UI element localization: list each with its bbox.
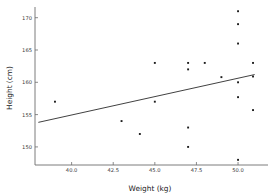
data-point <box>237 23 239 25</box>
x-tick-label: 47.5 <box>191 167 203 173</box>
y-tick-label: 170 <box>22 15 32 21</box>
y-tick-label: 165 <box>22 47 32 53</box>
x-tick-label: 45.0 <box>149 167 161 173</box>
data-point <box>237 159 239 161</box>
trend-line <box>38 75 254 123</box>
data-point <box>252 109 254 111</box>
axes <box>35 7 268 165</box>
data-point <box>187 146 189 148</box>
y-tick-label: 155 <box>22 112 32 118</box>
x-tick-label: 42.5 <box>107 167 119 173</box>
data-point <box>187 68 189 70</box>
y-axis-title: Height (cm) <box>5 66 14 110</box>
data-point <box>139 133 141 135</box>
linear-fit-line <box>38 75 254 123</box>
data-point <box>204 62 206 64</box>
chart-canvas: 40.042.545.047.550.0 150155160165170 Wei… <box>0 0 274 194</box>
data-point <box>187 127 189 129</box>
data-point <box>237 10 239 12</box>
data-point <box>252 76 254 78</box>
data-point <box>252 62 254 64</box>
y-tick-label: 160 <box>22 79 32 85</box>
data-point <box>237 96 239 98</box>
data-point <box>54 101 56 103</box>
x-tick-label: 50.0 <box>232 167 244 173</box>
data-point <box>187 62 189 64</box>
data-point <box>220 76 222 78</box>
data-point <box>121 120 123 122</box>
data-point <box>237 81 239 83</box>
data-point <box>237 43 239 45</box>
x-axis-ticks: 40.042.545.047.550.0 <box>66 162 244 173</box>
x-tick-label: 40.0 <box>66 167 78 173</box>
data-point <box>154 101 156 103</box>
scatter-plot-figure: 40.042.545.047.550.0 150155160165170 Wei… <box>0 0 274 194</box>
data-point <box>154 62 156 64</box>
x-axis-title: Weight (kg) <box>129 184 172 193</box>
y-tick-label: 150 <box>22 144 32 150</box>
data-points <box>54 10 254 161</box>
y-axis-ticks: 150155160165170 <box>22 15 38 150</box>
